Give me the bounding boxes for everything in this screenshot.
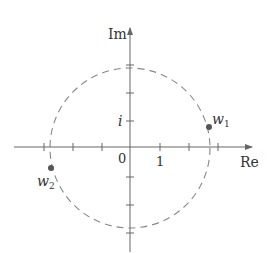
origin-label: 0 (118, 151, 126, 166)
imag-tick-label: i (118, 113, 122, 129)
complex-plane-diagram: Im Re 0 1 i w1 w2 (0, 0, 272, 253)
point-w1-label: w1 (212, 111, 230, 129)
point-w2-label: w2 (37, 173, 55, 191)
real-tick-label: 1 (156, 154, 164, 169)
point-w2 (48, 165, 54, 171)
imag-axis-label: Im (108, 26, 127, 42)
real-axis-label: Re (240, 154, 259, 170)
